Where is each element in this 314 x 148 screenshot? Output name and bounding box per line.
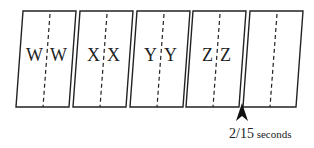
frame-letter-right: Y bbox=[164, 45, 177, 65]
time-label-number: 2/15 bbox=[229, 126, 254, 141]
frame-letter-left: W bbox=[26, 45, 43, 65]
frame-outline bbox=[16, 11, 76, 107]
film-strip-diagram: WWXXYYZZ 2/15 seconds bbox=[0, 0, 314, 148]
film-frame: ZZ bbox=[186, 11, 246, 107]
frame-letter-left: X bbox=[87, 45, 100, 65]
frames-group: WWXXYYZZ bbox=[16, 11, 303, 107]
frame-letter-right: X bbox=[107, 45, 120, 65]
frame-outline bbox=[73, 11, 133, 107]
film-frame: WW bbox=[16, 11, 76, 107]
frame-letter-right: W bbox=[50, 45, 67, 65]
film-frame bbox=[243, 11, 303, 107]
time-label: 2/15 seconds bbox=[229, 126, 291, 141]
time-label-unit: seconds bbox=[254, 128, 292, 140]
film-frame: XX bbox=[73, 11, 133, 107]
frame-letter-left: Y bbox=[144, 45, 157, 65]
frame-letter-left: Z bbox=[202, 45, 213, 65]
frame-outline bbox=[186, 11, 246, 107]
film-frame: YY bbox=[130, 11, 190, 107]
frame-outline bbox=[243, 11, 303, 107]
frame-outline bbox=[130, 11, 190, 107]
frame-letter-right: Z bbox=[220, 45, 231, 65]
time-marker: 2/15 seconds bbox=[229, 103, 291, 141]
